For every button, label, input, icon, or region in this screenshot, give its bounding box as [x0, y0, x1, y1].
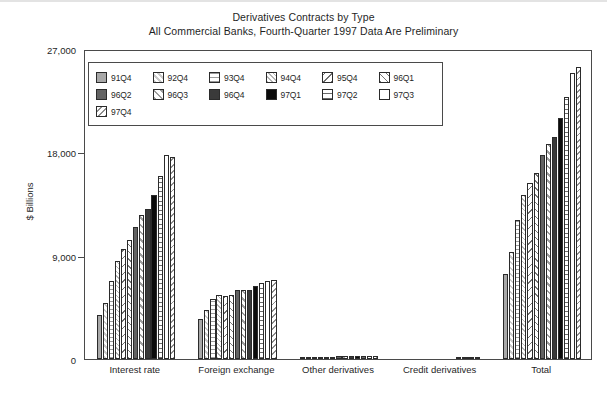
legend-row: 96Q296Q396Q497Q197Q297Q3	[96, 86, 435, 103]
bar	[204, 310, 209, 359]
legend-swatch-icon	[266, 89, 277, 100]
legend-item-96Q2[interactable]: 96Q2	[96, 89, 153, 100]
bar	[456, 357, 461, 359]
legend-item-97Q3[interactable]: 97Q3	[379, 89, 436, 100]
bar	[223, 296, 228, 359]
bar	[265, 281, 270, 359]
bar	[300, 357, 305, 359]
y-axis-ticks: 09,00018,00027,000	[0, 0, 76, 395]
bar	[133, 227, 138, 359]
legend-label: 91Q4	[111, 73, 131, 83]
bar	[318, 357, 323, 359]
legend-label: 97Q3	[394, 90, 414, 100]
bar	[115, 261, 120, 359]
legend-label: 96Q4	[224, 90, 244, 100]
bar	[468, 357, 473, 359]
legend-swatch-icon	[209, 72, 220, 83]
legend-label: 96Q3	[168, 90, 188, 100]
bar	[324, 357, 329, 359]
bar	[170, 157, 175, 359]
chart-subtitle: All Commercial Banks, Fourth-Quarter 199…	[0, 24, 607, 38]
top-divider	[0, 0, 607, 2]
bar	[253, 286, 258, 359]
x-tick-label: Other derivatives	[302, 364, 374, 375]
legend-item-96Q4[interactable]: 96Q4	[209, 89, 266, 100]
y-tick-label: 0	[71, 355, 76, 366]
bar	[540, 155, 545, 359]
legend-swatch-icon	[322, 72, 333, 83]
bar	[259, 283, 264, 359]
legend-label: 96Q1	[394, 73, 414, 83]
bar	[546, 144, 551, 359]
bar	[521, 195, 526, 359]
legend-swatch-icon	[153, 89, 164, 100]
bar	[515, 220, 520, 360]
bar	[139, 215, 144, 359]
bar-group	[503, 51, 581, 359]
x-tick-label: Foreign exchange	[198, 364, 274, 375]
chart-title: Derivatives Contracts by Type	[0, 10, 607, 24]
legend-swatch-icon	[96, 106, 107, 117]
legend-row: 91Q492Q493Q494Q495Q496Q1	[96, 69, 435, 86]
bar	[312, 357, 317, 359]
bar	[109, 281, 114, 359]
legend-label: 95Q4	[337, 73, 357, 83]
x-tick-label: Credit derivatives	[403, 364, 476, 375]
bar	[210, 299, 215, 359]
bar	[229, 295, 234, 359]
legend-label: 94Q4	[281, 73, 301, 83]
bar	[534, 173, 539, 359]
legend-swatch-icon	[209, 89, 220, 100]
bar	[97, 315, 102, 359]
bar	[509, 252, 514, 359]
bar	[121, 249, 126, 359]
chart-title-block: Derivatives Contracts by Type All Commer…	[0, 10, 607, 38]
legend-swatch-icon	[379, 72, 390, 83]
legend-label: 97Q4	[111, 107, 131, 117]
legend-item-97Q4[interactable]: 97Q4	[96, 106, 155, 117]
bar	[198, 319, 203, 359]
legend-item-94Q4[interactable]: 94Q4	[266, 72, 323, 83]
legend-label: 97Q1	[281, 90, 301, 100]
legend-item-93Q4[interactable]: 93Q4	[209, 72, 266, 83]
legend: 91Q492Q493Q494Q495Q496Q196Q296Q396Q497Q1…	[88, 62, 443, 126]
legend-item-96Q3[interactable]: 96Q3	[153, 89, 210, 100]
legend-swatch-icon	[266, 72, 277, 83]
legend-item-97Q2[interactable]: 97Q2	[322, 89, 379, 100]
bar	[570, 73, 575, 359]
x-tick-label: Total	[531, 364, 551, 375]
legend-item-97Q1[interactable]: 97Q1	[266, 89, 323, 100]
bar	[564, 97, 569, 359]
bar	[336, 356, 341, 359]
legend-swatch-icon	[322, 89, 333, 100]
bar	[330, 357, 335, 359]
legend-row: 97Q4	[96, 103, 435, 120]
bar	[103, 303, 108, 359]
y-tick-label: 9,000	[52, 251, 76, 262]
bar	[164, 155, 169, 359]
legend-swatch-icon	[96, 72, 107, 83]
bar	[306, 357, 311, 359]
bar	[367, 356, 372, 359]
legend-item-95Q4[interactable]: 95Q4	[322, 72, 379, 83]
bar	[527, 183, 532, 359]
bar	[271, 280, 276, 359]
y-tick-label: 18,000	[47, 148, 76, 159]
legend-label: 93Q4	[224, 73, 244, 83]
bar	[342, 356, 347, 359]
bar	[349, 356, 354, 359]
legend-item-92Q4[interactable]: 92Q4	[153, 72, 210, 83]
bar	[127, 240, 132, 359]
legend-item-96Q1[interactable]: 96Q1	[379, 72, 436, 83]
bar	[241, 290, 246, 359]
legend-swatch-icon	[96, 89, 107, 100]
bar	[373, 356, 378, 359]
legend-item-91Q4[interactable]: 91Q4	[96, 72, 153, 83]
legend-label: 96Q2	[111, 90, 131, 100]
bar	[158, 176, 163, 359]
legend-label: 92Q4	[168, 73, 188, 83]
bar	[361, 356, 366, 359]
x-tick-label: Interest rate	[109, 364, 160, 375]
bar	[355, 356, 360, 359]
chart-figure: Derivatives Contracts by Type All Commer…	[0, 0, 607, 395]
